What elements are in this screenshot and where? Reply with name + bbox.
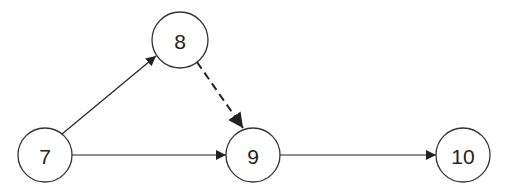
node-9: 9 xyxy=(226,128,280,182)
node-10-label: 10 xyxy=(451,145,474,168)
network-diagram: 7 8 9 10 xyxy=(0,0,514,195)
node-8: 8 xyxy=(152,12,208,68)
node-9-label: 9 xyxy=(247,145,259,168)
node-8-label: 8 xyxy=(174,30,186,53)
node-7: 7 xyxy=(18,128,72,182)
edge-8-to-9-dashed xyxy=(197,62,243,128)
node-7-label: 7 xyxy=(39,145,51,168)
node-10: 10 xyxy=(436,128,490,182)
edge-7-to-8 xyxy=(62,56,156,134)
